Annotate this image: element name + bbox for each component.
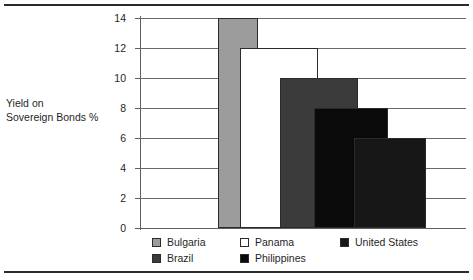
legend-item-philippines[interactable]: Philippines bbox=[240, 252, 340, 264]
legend-label: Panama bbox=[255, 236, 294, 248]
y-axis-caption: Yield on Sovereign Bonds % bbox=[6, 96, 126, 124]
y-tick-6: 6 bbox=[135, 138, 140, 139]
legend-swatch-icon bbox=[152, 254, 161, 263]
y-tick-label-0: 0 bbox=[120, 222, 126, 234]
y-tick-2: 2 bbox=[135, 198, 140, 199]
legend-label: Brazil bbox=[167, 252, 193, 264]
legend-swatch-icon bbox=[240, 254, 249, 263]
gridline-0 bbox=[140, 228, 466, 229]
legend-label: Bulgaria bbox=[167, 236, 206, 248]
top-divider-rule bbox=[4, 4, 469, 6]
y-axis-caption-line-2: Sovereign Bonds % bbox=[6, 110, 126, 124]
bar-united-states bbox=[354, 138, 426, 228]
y-tick-label-2: 2 bbox=[120, 192, 126, 204]
bottom-divider-rule bbox=[4, 271, 469, 273]
legend-label: United States bbox=[355, 236, 418, 248]
legend-swatch-icon bbox=[152, 238, 161, 247]
legend-item-panama[interactable]: Panama bbox=[240, 236, 340, 248]
legend-label: Philippines bbox=[255, 252, 306, 264]
y-tick-10: 10 bbox=[135, 78, 140, 79]
y-tick-label-6: 6 bbox=[120, 132, 126, 144]
chart-legend: BulgariaPanamaUnited StatesBrazilPhilipp… bbox=[152, 234, 462, 266]
legend-item-bulgaria[interactable]: Bulgaria bbox=[152, 236, 240, 248]
legend-swatch-icon bbox=[240, 238, 249, 247]
y-tick-label-12: 12 bbox=[114, 42, 126, 54]
y-axis-caption-line-1: Yield on bbox=[6, 96, 126, 110]
legend-item-brazil[interactable]: Brazil bbox=[152, 252, 240, 264]
legend-item-united-states[interactable]: United States bbox=[340, 236, 460, 248]
y-tick-label-10: 10 bbox=[114, 72, 126, 84]
y-tick-label-8: 8 bbox=[120, 102, 126, 114]
y-tick-4: 4 bbox=[135, 168, 140, 169]
plot-area: 02468101214 bbox=[140, 18, 466, 228]
y-tick-0: 0 bbox=[135, 228, 140, 229]
y-tick-14: 14 bbox=[135, 18, 140, 19]
y-tick-label-14: 14 bbox=[114, 12, 126, 24]
y-tick-8: 8 bbox=[135, 108, 140, 109]
y-tick-12: 12 bbox=[135, 48, 140, 49]
gridline-14 bbox=[140, 18, 466, 19]
legend-swatch-icon bbox=[340, 238, 349, 247]
y-tick-label-4: 4 bbox=[120, 162, 126, 174]
